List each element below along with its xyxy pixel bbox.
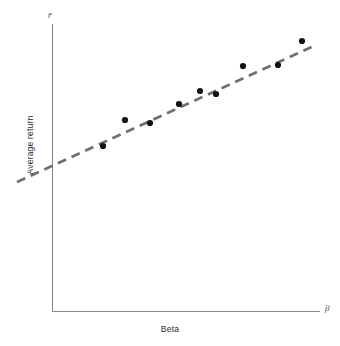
data-point: [100, 143, 106, 149]
y-axis-symbol-rbar: r̄: [48, 10, 52, 20]
x-axis-title: Beta: [0, 324, 340, 334]
data-point: [197, 88, 203, 94]
fit-line-group: [17, 45, 316, 182]
data-point: [299, 38, 305, 44]
data-point: [240, 63, 246, 69]
data-point: [176, 101, 182, 107]
y-axis-title: Average return: [25, 95, 35, 195]
data-points-group: [100, 38, 305, 149]
security-market-line: [17, 45, 316, 182]
data-point: [122, 117, 128, 123]
plot-canvas: [0, 0, 340, 346]
data-point: [275, 62, 281, 68]
data-point: [147, 120, 153, 126]
scatter-figure: r̄ β Average return Beta: [0, 0, 340, 346]
x-axis-symbol-beta: β: [325, 303, 329, 313]
data-point: [213, 91, 219, 97]
